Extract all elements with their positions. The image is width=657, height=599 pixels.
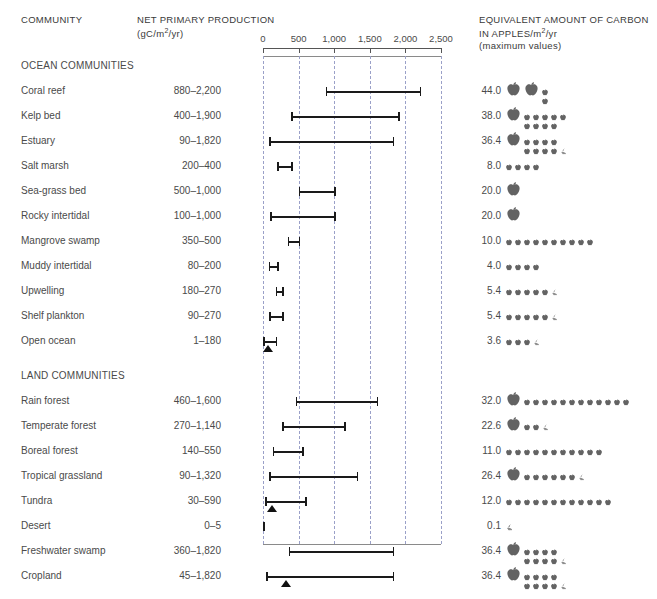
row-label-boreal-forest: Boreal forest	[21, 445, 78, 456]
range-bar-coral-reef	[326, 91, 420, 93]
apple-small-icon	[523, 443, 531, 461]
column-header-npp-units: (gC/m2/yr)	[137, 27, 184, 39]
range-cap-max-coral-reef	[420, 87, 422, 96]
carbon-value-coral-reef: 44.0	[471, 85, 501, 96]
apple-small-icon	[595, 393, 603, 411]
range-bar-sea-grass-bed	[299, 191, 335, 193]
range-bar-rocky-intertidal	[270, 216, 334, 218]
range-cap-max-open-ocean	[276, 337, 278, 346]
apple-small-icon	[550, 493, 558, 511]
apple-small-icon	[622, 393, 630, 411]
row-range-freshwater-swamp: 360–1,820	[105, 545, 221, 556]
apple-small-icon	[541, 308, 549, 326]
range-cap-min-salt-marsh	[277, 162, 279, 171]
row-label-mangrove-swamp: Mangrove swamp	[21, 235, 100, 246]
apple-small-icon	[577, 393, 585, 411]
range-cap-max-rain-forest	[377, 397, 379, 406]
apple-small-icon	[541, 443, 549, 461]
row-label-sea-grass-bed: Sea-grass bed	[21, 185, 86, 196]
apple-small-icon	[586, 493, 594, 511]
row-label-salt-marsh: Salt marsh	[21, 160, 69, 171]
range-cap-min-sea-grass-bed	[299, 187, 301, 196]
apple-large-icon	[523, 82, 540, 103]
carbon-value-rocky-intertidal: 20.0	[471, 210, 501, 221]
apple-small-icon	[514, 158, 522, 176]
apple-small-icon	[541, 393, 549, 411]
apple-small-icon	[577, 443, 585, 461]
row-label-desert: Desert	[21, 520, 50, 531]
row-label-estuary: Estuary	[21, 135, 55, 146]
x-axis-line	[263, 48, 441, 49]
range-cap-min-coral-reef	[326, 87, 328, 96]
range-cap-min-tropical-grassland	[269, 472, 271, 481]
apple-small-icon	[514, 258, 522, 276]
apple-small-icon	[514, 283, 522, 301]
range-cap-max-rocky-intertidal	[334, 212, 336, 221]
row-label-tropical-grassland: Tropical grassland	[21, 470, 102, 481]
x-tick-label: 500	[291, 33, 307, 44]
range-cap-min-mangrove-swamp	[288, 237, 290, 246]
range-cap-max-freshwater-swamp	[393, 547, 395, 556]
apple-large-icon	[505, 207, 522, 228]
apple-large-icon	[505, 82, 522, 103]
apple-small-icon	[523, 333, 531, 351]
primary-production-chart: COMMUNITY NET PRIMARY PRODUCTION (gC/m2/…	[0, 0, 657, 599]
apple-small-icon	[514, 493, 522, 511]
range-cap-max-sea-grass-bed	[334, 187, 336, 196]
apple-small-icon	[514, 308, 522, 326]
range-cap-max-kelp-bed	[398, 112, 400, 121]
apple-large-icon	[505, 417, 522, 438]
carbon-value-estuary: 36.4	[471, 135, 501, 146]
range-cap-max-shelf-plankton	[282, 312, 284, 321]
x-tick	[405, 48, 406, 53]
apple-small-icon	[604, 393, 612, 411]
apple-small-icon	[505, 493, 513, 511]
range-cap-max-estuary	[393, 137, 395, 146]
row-range-boreal-forest: 140–550	[105, 445, 221, 456]
row-range-temperate-forest: 270–1,140	[105, 420, 221, 431]
apple-small-icon	[523, 258, 531, 276]
row-range-coral-reef: 880–2,200	[105, 85, 221, 96]
range-cap-min-estuary	[269, 137, 271, 146]
carbon-value-tundra: 12.0	[471, 495, 501, 506]
apple-small-icon	[559, 468, 567, 486]
apple-small-icon	[550, 142, 558, 160]
apple-small-icon	[505, 333, 513, 351]
apple-partial-icon	[505, 518, 513, 536]
range-cap-min-boreal-forest	[273, 447, 275, 456]
range-bar-open-ocean	[263, 341, 276, 343]
apple-small-icon	[559, 443, 567, 461]
row-range-upwelling: 180–270	[105, 285, 221, 296]
row-label-rocky-intertidal: Rocky intertidal	[21, 210, 89, 221]
apple-partial-icon	[541, 418, 549, 436]
range-bar-shelf-plankton	[269, 316, 282, 318]
range-bar-tundra	[265, 501, 305, 503]
apple-small-icon	[532, 233, 540, 251]
row-range-rain-forest: 460–1,600	[105, 395, 221, 406]
apple-small-icon	[559, 493, 567, 511]
row-label-coral-reef: Coral reef	[21, 85, 65, 96]
apple-large-icon	[505, 107, 522, 128]
row-label-upwelling: Upwelling	[21, 285, 64, 296]
carbon-value-boreal-forest: 11.0	[471, 445, 501, 456]
apple-small-icon	[532, 493, 540, 511]
range-cap-max-upwelling	[282, 287, 284, 296]
carbon-value-desert: 0.1	[471, 520, 501, 531]
range-cap-min-shelf-plankton	[269, 312, 271, 321]
apple-partial-icon	[577, 468, 585, 486]
apple-small-icon	[577, 233, 585, 251]
apple-small-icon	[532, 308, 540, 326]
row-range-salt-marsh: 200–400	[105, 160, 221, 171]
apple-small-icon	[568, 393, 576, 411]
x-tick	[263, 48, 264, 53]
x-tick-label: 1,500	[358, 33, 382, 44]
carbon-value-tropical-grassland: 26.4	[471, 470, 501, 481]
row-range-open-ocean: 1–180	[105, 335, 221, 346]
apple-small-icon	[586, 233, 594, 251]
apple-small-icon	[586, 443, 594, 461]
x-tick	[441, 48, 442, 53]
apple-small-icon	[505, 283, 513, 301]
apple-small-icon	[559, 233, 567, 251]
apple-small-icon	[532, 258, 540, 276]
row-range-mangrove-swamp: 350–500	[105, 235, 221, 246]
